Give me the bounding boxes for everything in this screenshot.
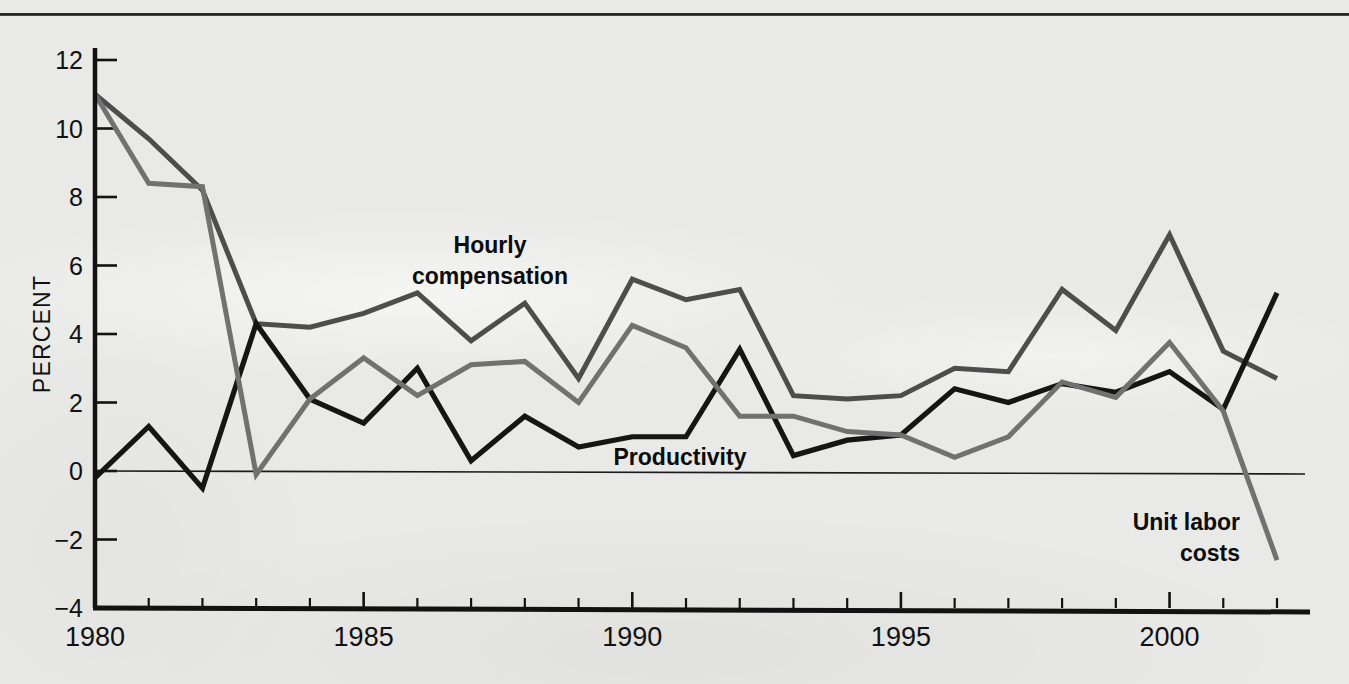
x-tick-label-1995: 1995	[871, 622, 931, 652]
y-tick-label-8: −4	[54, 594, 83, 622]
chart-svg: 121086420−2−4 19801985199019952000 PERCE…	[0, 0, 1349, 684]
y-tick-label-6: 0	[69, 457, 83, 485]
y-tick-labels-group: 121086420−2−4	[54, 46, 83, 622]
hourly-compensation-label-line2: compensation	[412, 263, 568, 289]
y-axis-title-group: PERCENT	[29, 275, 55, 393]
y-tick-label-0: 12	[55, 46, 83, 74]
y-tick-label-4: 4	[69, 320, 83, 348]
axis-ticks-group	[95, 60, 1277, 608]
axis-lines-group	[93, 48, 1310, 612]
x-tick-labels-group: 19801985199019952000	[65, 622, 1200, 652]
x-tick-label-1980: 1980	[65, 622, 125, 652]
series-group	[95, 94, 1277, 560]
series-line-hourly-compensation	[95, 94, 1277, 399]
y-tick-label-2: 8	[69, 183, 83, 211]
x-tick-label-1990: 1990	[602, 622, 662, 652]
y-tick-label-1: 10	[55, 115, 83, 143]
zero-line-group	[95, 471, 1305, 474]
productivity-label: Productivity	[614, 444, 747, 470]
x-tick-label-2000: 2000	[1140, 622, 1200, 652]
y-tick-label-7: −2	[54, 526, 83, 554]
y-tick-label-3: 6	[69, 252, 83, 280]
unit-labor-costs-label-line2: costs	[1180, 540, 1240, 566]
y-axis-title: PERCENT	[29, 275, 55, 393]
y-tick-label-5: 2	[69, 389, 83, 417]
x-tick-label-1985: 1985	[334, 622, 394, 652]
zero-reference-line	[95, 471, 1305, 474]
x-axis-line	[93, 608, 1310, 612]
unit-labor-costs-label: Unit labor	[1133, 509, 1240, 535]
line-chart: 121086420−2−4 19801985199019952000 PERCE…	[0, 0, 1349, 684]
hourly-compensation-label: Hourly	[454, 232, 527, 258]
